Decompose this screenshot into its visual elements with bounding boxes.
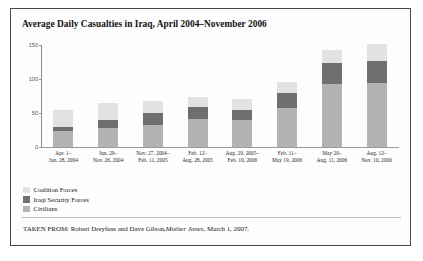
x-axis-label: Aug. 29, 2005–Feb. 10, 2006 — [220, 150, 265, 164]
plot-area: 050100150 — [41, 45, 399, 147]
bar-segment-coalition-forces — [188, 97, 208, 107]
x-axis-label-line: Jun. 28, 2004 — [41, 157, 86, 164]
x-axis-label: Feb. 12–Aug. 28, 2005 — [175, 150, 220, 164]
bar-segment-civilians — [277, 108, 297, 147]
source-publication: Mother Jones — [166, 225, 204, 232]
x-axis-label-line: May 20– — [310, 150, 355, 157]
legend-label: Civilians — [34, 205, 58, 212]
x-axis-label: Nov. 27, 2004–Feb. 11, 2005 — [131, 150, 176, 164]
bar-segment-iraqi-security-forces — [143, 113, 163, 125]
legend-swatch-icon — [23, 196, 30, 203]
bar-group[interactable] — [367, 44, 387, 147]
bar-segment-iraqi-security-forces — [367, 61, 387, 83]
bar-group[interactable] — [277, 82, 297, 147]
source-prefix: TAKEN FROM: Robert Dreyfuss and Dave Gil… — [23, 225, 166, 232]
divider — [22, 217, 401, 218]
bar-segment-iraqi-security-forces — [188, 107, 208, 119]
x-axis-label: May 20–Aug. 11, 2006 — [310, 150, 355, 164]
x-axis-label: Jun. 29–Nov. 26, 2004 — [86, 150, 131, 164]
legend-label: Coalition Forces — [34, 186, 78, 193]
bar-segment-coalition-forces — [232, 99, 252, 110]
x-axis-label-line: May 19, 2006 — [265, 157, 310, 164]
x-axis-label-line: Aug. 11, 2006 — [310, 157, 355, 164]
x-axis-label-line: Feb. 12– — [175, 150, 220, 157]
bar-segment-civilians — [53, 131, 73, 147]
bar-segment-civilians — [188, 119, 208, 147]
y-tick-label: 150 — [29, 42, 38, 48]
legend-swatch-icon — [23, 187, 30, 194]
bar-segment-civilians — [232, 120, 252, 147]
legend-label: Iraqi Security Forces — [34, 196, 89, 203]
x-axis-label-line: Feb. 10, 2006 — [220, 157, 265, 164]
bar-segment-coalition-forces — [53, 110, 73, 127]
chart-legend: Coalition ForcesIraqi Security ForcesCiv… — [23, 185, 89, 214]
x-axis-label-line: Apr. 1– — [41, 150, 86, 157]
bar-segment-coalition-forces — [322, 50, 342, 62]
legend-item[interactable]: Civilians — [23, 204, 89, 214]
bar-group[interactable] — [98, 103, 118, 147]
x-axis-label-line: Jun. 29– — [86, 150, 131, 157]
bar-series-container — [41, 45, 399, 147]
bar-segment-civilians — [143, 125, 163, 147]
x-axis-label-line: Aug. 29, 2005– — [220, 150, 265, 157]
bar-segment-coalition-forces — [277, 82, 297, 93]
x-axis-label-line: Nov. 27, 2004– — [131, 150, 176, 157]
figure-frame: Average Daily Casualties in Iraq, April … — [10, 8, 411, 246]
bar-group[interactable] — [322, 50, 342, 147]
bar-segment-iraqi-security-forces — [277, 93, 297, 108]
x-axis-label-line: Aug. 12– — [354, 150, 399, 157]
bar-segment-civilians — [322, 84, 342, 147]
y-tick-mark — [39, 147, 41, 148]
bar-segment-iraqi-security-forces — [98, 120, 118, 128]
bar-segment-coalition-forces — [143, 101, 163, 113]
x-axis-label-line: Nov. 10, 2006 — [354, 157, 399, 164]
legend-swatch-icon — [23, 206, 30, 213]
x-axis-label: Apr. 1–Jun. 28, 2004 — [41, 150, 86, 164]
bar-segment-civilians — [98, 128, 118, 147]
bar-segment-coalition-forces — [98, 103, 118, 120]
bar-group[interactable] — [232, 99, 252, 147]
x-axis-label-line: Aug. 28, 2005 — [175, 157, 220, 164]
source-suffix: , March 1, 2007. — [204, 225, 250, 232]
x-axis-labels: Apr. 1–Jun. 28, 2004Jun. 29–Nov. 26, 200… — [41, 150, 399, 172]
bar-segment-civilians — [367, 83, 387, 147]
x-axis-label-line: Nov. 26, 2004 — [86, 157, 131, 164]
x-axis-line — [41, 147, 399, 148]
bar-segment-iraqi-security-forces — [232, 110, 252, 120]
bar-segment-iraqi-security-forces — [322, 63, 342, 85]
bar-segment-coalition-forces — [367, 44, 387, 60]
y-tick-label: 0 — [35, 144, 38, 150]
bar-group[interactable] — [188, 97, 208, 147]
page-title: Average Daily Casualties in Iraq, April … — [22, 19, 267, 29]
x-axis-label: Aug. 12–Nov. 10, 2006 — [354, 150, 399, 164]
legend-item[interactable]: Iraqi Security Forces — [23, 195, 89, 205]
x-axis-label-line: Feb. 11, 2005 — [131, 157, 176, 164]
bar-group[interactable] — [53, 110, 73, 147]
y-tick-label: 100 — [29, 76, 38, 82]
x-axis-label: Feb. 11–May 19, 2006 — [265, 150, 310, 164]
bar-group[interactable] — [143, 101, 163, 147]
figure-inner: Average Daily Casualties in Iraq, April … — [11, 9, 410, 245]
y-tick-label: 50 — [32, 110, 38, 116]
legend-item[interactable]: Coalition Forces — [23, 185, 89, 195]
source-citation: TAKEN FROM: Robert Dreyfuss and Dave Gil… — [23, 225, 249, 232]
x-axis-label-line: Feb. 11– — [265, 150, 310, 157]
